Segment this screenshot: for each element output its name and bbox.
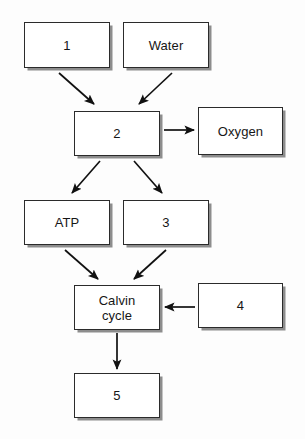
node-label-atp: ATP	[55, 215, 80, 230]
flow-diagram: 1 Water 2 Oxygen ATP 3 Calvin cycle 4 5	[0, 0, 305, 439]
node-label-calvin-cycle: Calvin cycle	[99, 293, 136, 323]
node-box-3[interactable]: 3	[123, 200, 209, 245]
arrow-atp-to-calvin	[65, 250, 98, 279]
node-box-4[interactable]: 4	[198, 283, 283, 328]
arrow-2-to-atp	[72, 161, 100, 193]
arrow-1-to-2	[59, 73, 94, 104]
arrow-2-to-3	[134, 161, 162, 193]
node-box-2[interactable]: 2	[74, 111, 160, 156]
node-label-5: 5	[113, 388, 120, 403]
node-box-atp[interactable]: ATP	[24, 200, 110, 245]
node-box-calvin-cycle[interactable]: Calvin cycle	[74, 285, 160, 330]
node-label-3: 3	[162, 215, 169, 230]
node-box-1[interactable]: 1	[24, 22, 110, 68]
node-box-5[interactable]: 5	[74, 373, 160, 418]
node-label-oxygen: Oxygen	[218, 124, 263, 139]
arrow-water-to-2	[139, 73, 172, 104]
node-label-water: Water	[149, 38, 184, 53]
node-label-1: 1	[63, 38, 70, 53]
node-label-4: 4	[237, 298, 244, 313]
arrow-3-to-calvin	[134, 250, 166, 279]
node-box-water[interactable]: Water	[123, 22, 209, 68]
node-label-2: 2	[113, 126, 120, 141]
node-box-oxygen[interactable]: Oxygen	[198, 107, 283, 155]
